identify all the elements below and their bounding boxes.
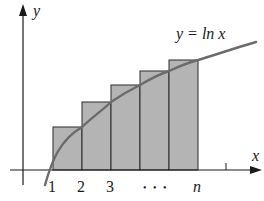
tick-label-2: 2 — [77, 178, 85, 195]
bar-1 — [53, 127, 82, 170]
curve-label: y = ln x — [174, 25, 225, 43]
bar-2 — [82, 102, 111, 170]
tick-label-n: n — [193, 178, 201, 195]
tick-label-ellipsis: • • • — [143, 182, 169, 193]
tick-label-1: 1 — [48, 178, 56, 195]
tick-label-3: 3 — [106, 178, 114, 195]
riemann-sum-figure: y x y = ln x 1 2 3 • • • n — [0, 0, 264, 201]
y-axis-label: y — [31, 2, 41, 20]
bar-n — [169, 60, 198, 170]
y-axis-arrow-icon — [19, 4, 27, 16]
x-axis-label: x — [251, 147, 259, 164]
x-axis-arrow-icon — [250, 166, 262, 174]
bars — [53, 60, 198, 170]
bar-4 — [140, 71, 169, 170]
